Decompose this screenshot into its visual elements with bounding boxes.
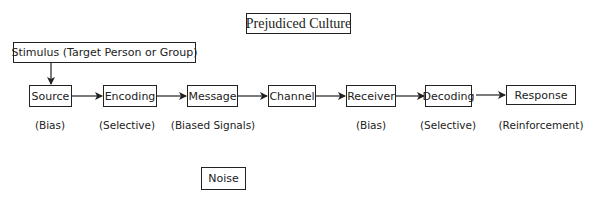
node-label: Receiver [347, 90, 395, 103]
node-message: Message [187, 85, 238, 107]
prejudiced-culture-label: Prejudiced Culture [246, 16, 351, 32]
node-decoding: Decoding [425, 85, 472, 107]
node-label: Decoding [423, 90, 475, 103]
node-label: Source [32, 90, 70, 103]
annotation-receiver: (Bias) [356, 119, 386, 131]
annotation-decoding: (Selective) [420, 119, 476, 131]
node-receiver: Receiver [346, 85, 396, 107]
noise-label: Noise [208, 172, 239, 185]
annotation-response: (Reinforcement) [499, 119, 584, 131]
node-response: Response [506, 85, 576, 105]
node-source: Source [29, 85, 72, 107]
annotation-source: (Bias) [35, 119, 65, 131]
node-label: Channel [269, 90, 314, 103]
node-channel: Channel [268, 85, 316, 107]
node-label: Response [515, 89, 568, 102]
noise-box: Noise [201, 167, 246, 190]
annotation-message: (Biased Signals) [171, 119, 255, 131]
node-label: Message [188, 90, 236, 103]
node-encoding: Encoding [103, 85, 157, 107]
annotation-encoding: (Selective) [99, 119, 155, 131]
prejudiced-culture-box: Prejudiced Culture [246, 13, 351, 34]
node-label: Encoding [105, 90, 156, 103]
stimulus-label: Stimulus (Target Person or Group) [11, 46, 197, 59]
stimulus-box: Stimulus (Target Person or Group) [13, 42, 196, 63]
